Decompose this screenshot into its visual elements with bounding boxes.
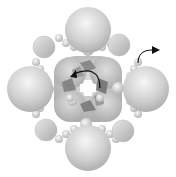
- large-sphere-west: [7, 66, 53, 112]
- large-sphere-east: [123, 66, 169, 112]
- large-sphere-north: [65, 7, 111, 53]
- large-sphere-south: [65, 125, 111, 171]
- sphere-packing-diagram: [0, 0, 176, 177]
